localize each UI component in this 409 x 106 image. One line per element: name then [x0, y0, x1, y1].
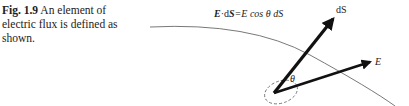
flux-diagram: E·dS=E cos θ dS dS E θ	[0, 0, 409, 106]
theta-label: θ	[290, 73, 295, 84]
E-label: E	[374, 56, 381, 67]
flux-formula: E·dS=E cos θ dS	[213, 8, 283, 19]
dS-vector-arrow	[274, 19, 333, 93]
dS-label: dS	[336, 4, 347, 15]
